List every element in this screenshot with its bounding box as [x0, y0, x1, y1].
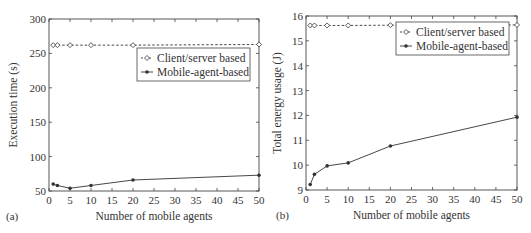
figure: 0510152025303540455050100150200250300Num… — [0, 0, 531, 233]
x-axis-label: Number of mobile agents — [95, 210, 213, 223]
y-tick-label: 100 — [30, 151, 47, 163]
y-tick-label: 13 — [292, 85, 304, 97]
diamond-marker — [515, 22, 520, 27]
y-tick-label: 50 — [35, 185, 47, 197]
diamond-marker — [131, 43, 136, 48]
diamond-marker — [312, 23, 317, 28]
y-tick-label: 16 — [292, 10, 304, 22]
dot-marker — [89, 184, 93, 188]
x-axis-label: Number of mobile agents — [353, 209, 471, 222]
series-line — [310, 117, 517, 184]
y-tick-label: 12 — [292, 109, 303, 121]
dot-marker — [56, 184, 60, 188]
legend-entry: Mobile-agent-based — [416, 40, 508, 53]
x-tick-label: 15 — [107, 194, 119, 206]
diamond-marker — [257, 42, 262, 47]
x-tick-label: 35 — [448, 193, 460, 205]
y-tick-label: 15 — [292, 35, 304, 47]
x-tick-label: 10 — [86, 194, 98, 206]
x-tick-label: 50 — [254, 194, 266, 206]
x-tick-label: 35 — [191, 194, 203, 206]
series-line — [53, 44, 259, 45]
x-tick-label: 5 — [67, 194, 73, 206]
x-tick-label: 40 — [469, 193, 481, 205]
y-tick-label: 10 — [292, 159, 304, 171]
dot-marker — [313, 173, 317, 177]
y-tick-label: 11 — [292, 134, 303, 146]
x-tick-label: 40 — [212, 194, 224, 206]
diamond-marker — [388, 23, 393, 28]
x-tick-label: 25 — [149, 194, 161, 206]
legend: Client/server basedMobile-agent-based — [396, 22, 509, 55]
y-tick-label: 300 — [30, 13, 47, 25]
legend-entry: Client/server based — [416, 26, 505, 38]
dot-marker — [257, 173, 261, 177]
chart-energy-usage: 05101520253035404550910111213141516Numbe… — [271, 10, 523, 222]
chart-execution-time: 0510152025303540455050100150200250300Num… — [6, 13, 265, 223]
y-axis-label: Total energy usage (J) — [271, 52, 284, 154]
y-tick-label: 250 — [30, 47, 47, 59]
x-tick-label: 25 — [406, 193, 418, 205]
dot-marker-icon — [404, 44, 408, 48]
dot-marker-icon — [145, 70, 149, 74]
x-tick-label: 45 — [490, 193, 502, 205]
x-tick-label: 0 — [46, 194, 52, 206]
dot-marker — [131, 178, 135, 182]
dot-marker — [68, 186, 72, 190]
x-tick-label: 15 — [364, 193, 376, 205]
x-tick-label: 45 — [233, 194, 245, 206]
diamond-marker — [346, 23, 351, 28]
dot-marker — [51, 182, 55, 186]
x-tick-label: 20 — [385, 193, 397, 205]
panel-label: (a) — [6, 210, 19, 223]
dot-marker — [346, 161, 350, 165]
y-tick-label: 9 — [298, 184, 304, 196]
dot-marker — [515, 115, 519, 119]
dot-marker — [325, 164, 329, 168]
legend-entry: Mobile-agent-based — [157, 66, 249, 79]
y-axis-label: Execution time (s) — [7, 62, 20, 147]
x-tick-label: 20 — [128, 194, 140, 206]
diamond-marker — [89, 43, 94, 48]
y-tick-label: 14 — [292, 60, 304, 72]
y-tick-label: 150 — [30, 116, 47, 128]
diamond-marker — [325, 23, 330, 28]
x-tick-label: 10 — [343, 193, 355, 205]
diamond-marker — [55, 43, 60, 48]
legend: Client/server basedMobile-agent-based — [137, 48, 250, 81]
x-tick-label: 5 — [324, 193, 330, 205]
legend-entry: Client/server based — [157, 52, 246, 64]
panel-label: (b) — [276, 209, 289, 222]
y-tick-label: 200 — [30, 82, 47, 94]
series-line — [53, 175, 259, 188]
diamond-marker — [68, 43, 73, 48]
x-tick-label: 30 — [170, 194, 182, 206]
x-tick-label: 30 — [427, 193, 439, 205]
x-tick-label: 0 — [303, 193, 309, 205]
dot-marker — [308, 183, 312, 187]
x-tick-label: 50 — [512, 193, 524, 205]
dot-marker — [389, 144, 393, 148]
